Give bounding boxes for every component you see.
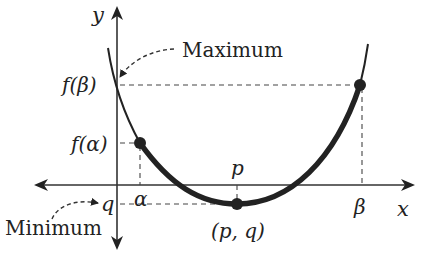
maximum-label: Maximum	[182, 38, 283, 62]
f-beta-label: f(β)	[60, 73, 97, 97]
y-axis-label: y	[91, 3, 105, 27]
minimum-label: Minimum	[5, 216, 102, 240]
beta-point	[354, 79, 366, 91]
alpha-label: α	[134, 187, 148, 211]
x-axis	[34, 179, 415, 191]
q-label: q	[101, 192, 114, 216]
f-alpha-label: f(α)	[69, 132, 108, 156]
parabola-right-tail	[360, 44, 368, 85]
vertex-point	[231, 198, 243, 210]
vertex-label: (p, q)	[211, 219, 265, 243]
x-axis-label: x	[397, 197, 409, 221]
alpha-point	[134, 137, 146, 149]
beta-label: β	[353, 195, 366, 219]
p-label: p	[231, 156, 244, 180]
parabola-interval-segment	[140, 85, 360, 204]
maximum-arrow-icon	[120, 49, 174, 77]
parabola-left-tail	[108, 48, 140, 143]
parabola-diagram: y x Maximum Minimum f(β) f(α) q α p β (p…	[0, 0, 429, 259]
guide-lines	[120, 85, 362, 204]
